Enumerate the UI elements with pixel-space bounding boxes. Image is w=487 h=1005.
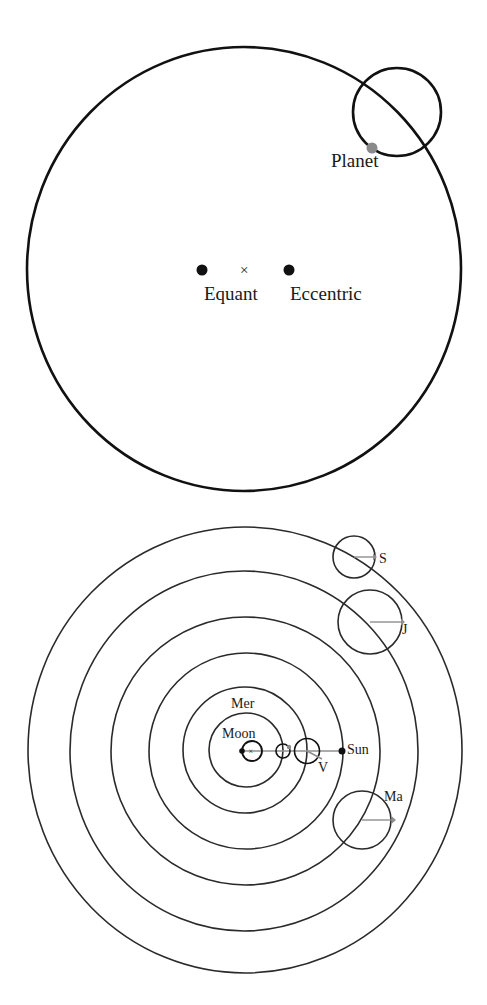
geocentric-diagram: [28, 527, 462, 973]
geocentric-bodies: × Moon Mer V Sun Ma J S: [222, 536, 408, 849]
center-x-mark: ×: [240, 262, 248, 278]
jupiter-label: J: [402, 622, 408, 637]
eccentric-dot: [284, 265, 295, 276]
equant-label: Equant: [204, 283, 259, 304]
eccentric-label: Eccentric: [290, 283, 362, 304]
sun-label: Sun: [347, 742, 369, 757]
saturn-label: S: [379, 551, 387, 566]
ptolemaic-diagrams: Planet × Equant Eccentric × Moon Mer V: [0, 0, 487, 1005]
venus-label: V: [318, 760, 328, 775]
mars-label: Ma: [384, 789, 403, 804]
center-x-mark-small: ×: [249, 747, 254, 756]
planet-label: Planet: [331, 150, 379, 171]
mercury-label: Mer: [231, 696, 255, 711]
orbit-ring-1: [209, 713, 283, 787]
mars-arrowhead: [392, 817, 396, 824]
equant-dot: [197, 265, 208, 276]
mercury-dot: [287, 745, 291, 749]
equant-diagram: Planet × Equant Eccentric: [27, 47, 461, 491]
orbit-ring-6: [28, 527, 462, 973]
moon-label: Moon: [222, 726, 255, 741]
sun-dot: [339, 748, 346, 755]
